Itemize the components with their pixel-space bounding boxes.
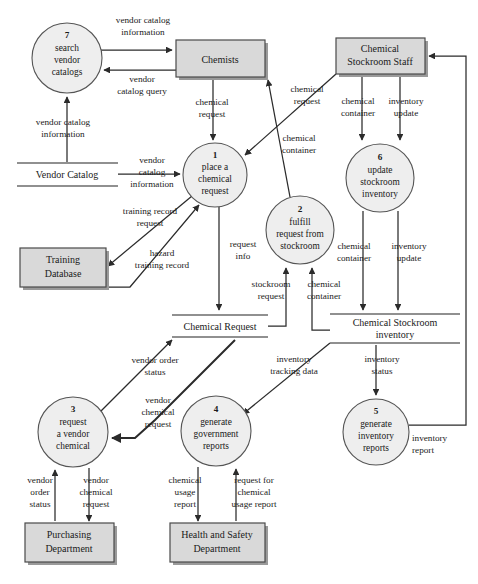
flow-label-inventory-status: inventory status	[364, 354, 400, 376]
flow-label-vendor-catalog-information-left: vendor catalog information	[36, 117, 91, 139]
process-4-line1: generate	[200, 417, 232, 427]
entity-health-safety-label-2: Department	[193, 543, 240, 554]
process-7-line2: vendor	[54, 55, 81, 65]
process-2-line2: request from	[276, 229, 324, 239]
label-text: vendor	[145, 395, 171, 405]
flow-label-vendor-order-status-bottom: vendor order status	[27, 475, 53, 509]
process-5-number: 5	[374, 406, 379, 416]
process-6-update-stockroom-inventory[interactable]: 6 update stockroom inventory	[346, 144, 414, 212]
flow-label-vendor-catalog-information-top: vendor catalog information	[116, 15, 171, 37]
label-text: hazard	[150, 248, 175, 258]
label-text: status	[30, 499, 51, 509]
process-2-line3: stockroom	[280, 241, 320, 251]
flow-label-inventory-tracking-data: inventory tracking data	[270, 354, 318, 376]
entity-training-db-label-2: Database	[45, 268, 82, 279]
label-text: inventory	[388, 96, 424, 106]
flow-label-hazard-training-record: hazard training record	[135, 248, 190, 270]
label-text: training record	[135, 260, 190, 270]
process-4-generate-government-reports[interactable]: 4 generate government reports	[181, 396, 251, 466]
label-text: vendor catalog	[116, 15, 171, 25]
process-2-fulfill-request-from-stockroom[interactable]: 2 fulfill request from stockroom	[266, 196, 334, 264]
diagram-canvas: Vendor Catalog Chemical Request Chemical…	[0, 0, 478, 584]
entity-chemical-stockroom-staff[interactable]: Chemical Stockroom Staff	[336, 38, 428, 77]
flow-label-vendor-chemical-request-bottom: vendor chemical request	[79, 475, 113, 509]
label-text: chemical	[79, 487, 113, 497]
data-flow-diagram: Vendor Catalog Chemical Request Chemical…	[0, 0, 478, 584]
label-text: update	[397, 253, 422, 263]
datastore-stockroom-inventory-label-2: inventory	[376, 329, 414, 340]
process-5-line3: reports	[363, 443, 389, 453]
entity-purchasing-label-1: Purchasing	[47, 529, 91, 540]
label-text: vendor	[129, 74, 155, 84]
label-text: container	[282, 145, 316, 155]
label-text: stockroom	[252, 279, 291, 289]
flow-label-stockroom-request: stockroom request	[252, 279, 291, 301]
process-3-request-a-vendor-chemical[interactable]: 3 request a vendor chemical	[38, 397, 108, 467]
label-text: usage report	[231, 499, 277, 509]
label-text: vendor catalog	[36, 117, 91, 127]
label-text: request	[294, 96, 321, 106]
label-text: request	[199, 109, 226, 119]
entity-training-database[interactable]: Training Database	[20, 248, 109, 290]
process-7-line1: search	[55, 43, 79, 53]
label-text: order	[30, 487, 49, 497]
flow-label-chemical-container-staff: chemical container	[341, 96, 375, 118]
flow-label-request-info: request info	[230, 239, 257, 261]
process-1-line2: chemical	[198, 174, 232, 184]
label-text: chemical	[337, 241, 371, 251]
label-text: request	[83, 499, 110, 509]
label-text: inventory	[412, 433, 448, 443]
label-text: vendor	[83, 475, 109, 485]
label-text: chemical	[237, 487, 271, 497]
process-4-number: 4	[214, 404, 219, 414]
datastore-chemical-stockroom-inventory[interactable]: Chemical Stockroom inventory	[330, 314, 460, 343]
label-text: information	[41, 129, 85, 139]
entity-chemists[interactable]: Chemists	[176, 40, 268, 80]
label-text: request for	[234, 475, 274, 485]
entity-training-db-label-1: Training	[46, 254, 80, 265]
process-3-line3: chemical	[56, 441, 90, 451]
label-text: information	[121, 27, 165, 37]
label-text: catalog	[139, 167, 166, 177]
process-3-line2: a vendor	[57, 429, 90, 439]
label-text: info	[236, 251, 251, 261]
entity-stockroom-staff-label-2: Stockroom Staff	[347, 56, 413, 67]
flow-label-inventory-update-to-store: inventory update	[391, 241, 427, 263]
label-text: inventory	[276, 354, 312, 364]
datastore-vendor-catalog[interactable]: Vendor Catalog	[17, 163, 118, 186]
entity-purchasing-department[interactable]: Purchasing Department	[25, 523, 117, 565]
flow-label-inventory-report: inventory report	[412, 433, 448, 455]
label-text: update	[394, 108, 419, 118]
label-text: chemical	[290, 84, 324, 94]
label-text: vendor order	[131, 355, 178, 365]
flow-label-chemical-container-to-store: chemical container	[337, 241, 371, 263]
label-text: container	[341, 108, 375, 118]
label-text: catalog query	[117, 86, 167, 96]
flow-label-inventory-update-staff: inventory update	[388, 96, 424, 118]
entity-chemists-label: Chemists	[201, 54, 238, 65]
label-text: usage	[175, 487, 196, 497]
process-5-generate-inventory-reports[interactable]: 5 generate inventory reports	[343, 399, 409, 465]
process-3-line1: request	[59, 417, 86, 427]
entity-health-and-safety-department[interactable]: Health and Safety Department	[170, 523, 268, 565]
process-4-line3: reports	[203, 441, 229, 451]
label-text: request	[137, 218, 164, 228]
process-1-number: 1	[213, 150, 218, 160]
process-5-line1: generate	[360, 419, 392, 429]
label-text: chemical	[341, 96, 375, 106]
process-7-search-vendor-catalogs[interactable]: 7 search vendor catalogs	[32, 23, 102, 93]
entity-purchasing-label-2: Department	[45, 543, 92, 554]
process-2-number: 2	[298, 204, 303, 214]
label-text: tracking data	[270, 366, 318, 376]
process-6-number: 6	[378, 152, 383, 162]
flow-label-request-for-chemical-usage-report: request for chemical usage report	[231, 475, 277, 509]
process-7-number: 7	[65, 30, 70, 40]
label-text: chemical	[307, 279, 341, 289]
process-7-line3: catalogs	[52, 67, 83, 77]
datastore-chemical-request[interactable]: Chemical Request	[172, 315, 268, 337]
flow-label-chemical-usage-report: chemical usage report	[168, 475, 202, 509]
process-1-line1: place a	[202, 162, 229, 172]
process-1-place-a-chemical-request[interactable]: 1 place a chemical request	[183, 143, 247, 207]
label-text: status	[372, 366, 393, 376]
label-text: chemical	[282, 133, 316, 143]
